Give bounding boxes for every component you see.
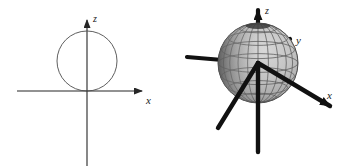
sphere-north-pole-cap <box>246 22 271 29</box>
left-x-axis-label: x <box>145 94 151 106</box>
sphere-limb-shadow <box>216 22 256 106</box>
figure-container: x z <box>0 0 345 167</box>
left-z-axis-label: z <box>92 13 97 24</box>
right-z-axis-label: z <box>264 5 269 16</box>
right-y-axis-label: y <box>295 34 301 46</box>
right-x-axis-label: x <box>326 89 332 101</box>
panel-2d-cross-section: x z <box>0 0 172 167</box>
panel-3d-sphere: z y x <box>172 0 345 167</box>
